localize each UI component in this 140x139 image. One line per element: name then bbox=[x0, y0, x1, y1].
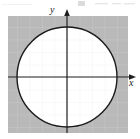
y-axis-label: y bbox=[50, 5, 54, 15]
figure-container: y x bbox=[0, 0, 140, 139]
coordinate-plane-graphic bbox=[0, 0, 140, 139]
x-axis-label: x bbox=[129, 78, 133, 88]
scan-artifact bbox=[2, 1, 135, 6]
